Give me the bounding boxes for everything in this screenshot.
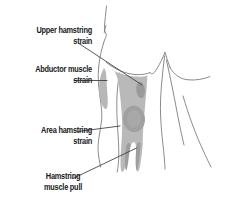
right-gluteal-fold: [170, 68, 210, 81]
label-hamstring-muscle-pull-line2: muscle pull: [32, 183, 95, 194]
anatomy-diagram: Upper hamstring strain Abductor muscle s…: [0, 0, 229, 208]
label-area-hamstring-strain: Area hamstring strain: [15, 126, 92, 147]
left-torso-outline: [104, 6, 107, 43]
abductor-muscle-patch: [99, 68, 108, 109]
label-hamstring-muscle-pull-line1: Hamstring: [32, 172, 95, 183]
label-upper-hamstring-strain-line1: Upper hamstring: [16, 26, 92, 37]
label-abductor-muscle-strain: Abductor muscle strain: [13, 65, 92, 86]
body-outline-group: [98, 6, 211, 172]
label-abductor-muscle-strain-line1: Abductor muscle: [13, 65, 92, 76]
label-area-hamstring-strain-line2: strain: [15, 137, 92, 148]
left-gluteal-fold: [106, 63, 150, 75]
right-outer-thigh-outline: [183, 96, 211, 167]
label-upper-hamstring-strain: Upper hamstring strain: [16, 26, 92, 47]
label-area-hamstring-strain-line1: Area hamstring: [15, 126, 92, 137]
right-thigh-midline: [166, 60, 184, 145]
right-inner-thigh-outline: [160, 56, 165, 169]
label-hamstring-muscle-pull: Hamstring muscle pull: [32, 172, 95, 193]
label-abductor-muscle-strain-line2: strain: [13, 76, 92, 87]
label-upper-hamstring-strain-line2: strain: [16, 37, 92, 48]
